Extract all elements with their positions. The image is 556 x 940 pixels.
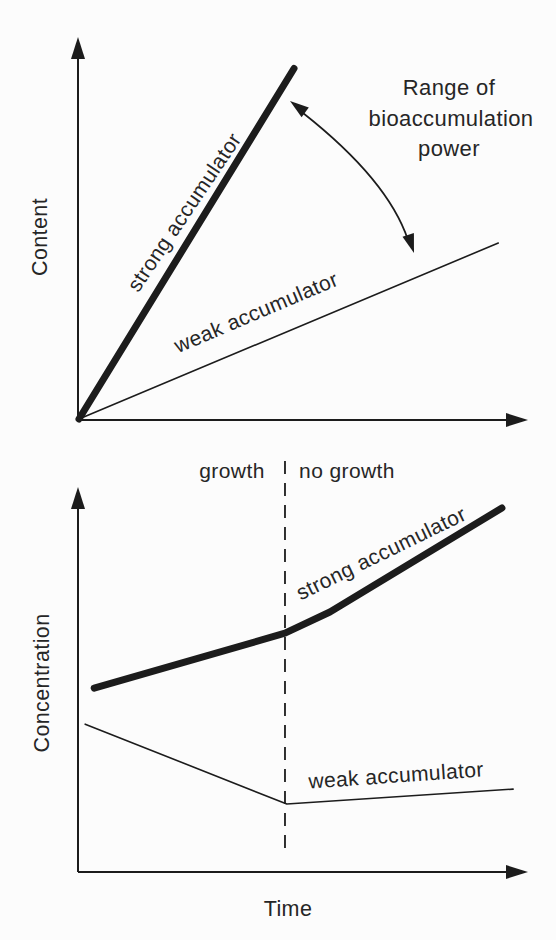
region-label-no-growth: no growth (299, 459, 395, 482)
top-y-axis-label: Content (28, 198, 52, 276)
range-annotation-line3: power (418, 136, 480, 161)
region-label-growth: growth (199, 459, 264, 482)
range-annotation-line1: Range of (403, 75, 496, 100)
range-arrow-lower-head-icon (403, 233, 415, 253)
range-annotation: Range of bioaccumulation power (369, 75, 534, 161)
bottom-weak-series-label: weak accumulator (307, 757, 485, 792)
bottom-y-axis-label: Concentration (30, 613, 54, 752)
strong-accumulator-line (79, 69, 294, 420)
bottom-strong-series-label: strong accumulator (292, 502, 469, 604)
bottom-x-axis-label: Time (264, 897, 313, 921)
range-annotation-line2: bioaccumulation (369, 106, 534, 131)
bottom-y-axis-arrow-icon (71, 487, 85, 509)
top-weak-series-label: weak accumulator (170, 267, 342, 357)
range-arrow-curve (303, 113, 408, 240)
top-chart: Content strong accumulator weak accumula… (28, 37, 533, 427)
figure-svg: Content strong accumulator weak accumula… (0, 0, 556, 940)
bottom-chart: growth no growth Concentration strong ac… (30, 459, 528, 921)
bottom-x-axis-arrow-icon (506, 865, 528, 879)
bioaccumulation-figure: Content strong accumulator weak accumula… (0, 0, 556, 940)
top-strong-series-label: strong accumulator (123, 129, 246, 296)
top-x-axis-arrow-icon (506, 413, 528, 427)
top-y-axis-arrow-icon (71, 37, 85, 59)
